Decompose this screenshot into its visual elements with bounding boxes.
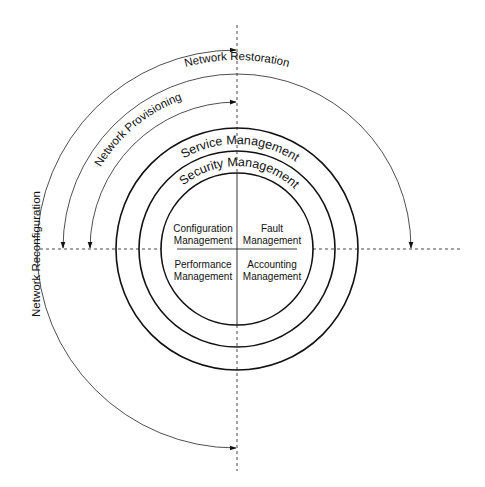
- network-reconfiguration-label: Network Reconfiguration: [30, 191, 42, 317]
- configuration-line1: Configuration: [173, 223, 232, 234]
- quadrant-accounting: Accounting Management: [243, 259, 302, 282]
- quadrant-configuration: Configuration Management: [173, 223, 232, 246]
- performance-line2: Management: [174, 271, 233, 282]
- network-management-diagram: Network Restoration Network Provisioning…: [0, 0, 485, 487]
- quadrant-fault: Fault Management: [243, 223, 302, 246]
- fault-line1: Fault: [261, 223, 283, 234]
- performance-line1: Performance: [174, 259, 232, 270]
- network-provisioning-label: Network Provisioning: [92, 90, 183, 168]
- quadrant-performance: Performance Management: [174, 259, 233, 282]
- fault-line2: Management: [243, 235, 302, 246]
- configuration-line2: Management: [174, 235, 233, 246]
- accounting-line2: Management: [243, 271, 302, 282]
- accounting-line1: Accounting: [247, 259, 296, 270]
- network-restoration-label: Network Restoration: [183, 50, 291, 69]
